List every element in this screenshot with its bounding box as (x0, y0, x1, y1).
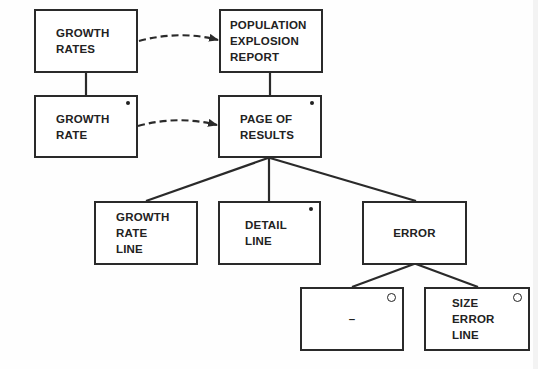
node-label: – (349, 311, 356, 327)
dashed-arrow-growth-rate-to-page (138, 120, 217, 126)
node-size-error-line: SIZE ERROR LINE (424, 287, 530, 351)
edge-page-to-error (270, 158, 416, 201)
node-label: DETAIL LINE (245, 217, 287, 249)
edge-page-to-growth-rate-line (146, 158, 268, 201)
structure-diagram: GROWTH RATES POPULATION EXPLOSION REPORT… (0, 0, 538, 369)
node-growth-rate-line: GROWTH RATE LINE (94, 201, 198, 265)
selection-marker-icon (387, 293, 396, 302)
node-growth-rates: GROWTH RATES (34, 9, 138, 73)
node-growth-rate: GROWTH RATE (34, 95, 138, 158)
edge-error-to-null (352, 264, 414, 287)
edge-error-to-size-error-line (416, 264, 478, 287)
node-page-of-results: PAGE OF RESULTS (218, 95, 322, 158)
node-label: SIZE ERROR LINE (452, 295, 495, 343)
selection-marker-icon (513, 293, 522, 302)
node-label: GROWTH RATES (56, 25, 110, 57)
node-label: GROWTH RATE (56, 111, 110, 143)
node-null-option: – (300, 287, 404, 351)
dashed-arrow-growth-rates-to-report (139, 35, 218, 41)
page-edge-shadow (533, 0, 538, 369)
iteration-marker-icon (309, 207, 313, 211)
node-label: POPULATION EXPLOSION REPORT (230, 17, 307, 65)
node-label: PAGE OF RESULTS (240, 111, 294, 143)
iteration-marker-icon (310, 101, 314, 105)
node-error: ERROR (362, 201, 467, 265)
node-population-explosion-report: POPULATION EXPLOSION REPORT (219, 9, 323, 73)
iteration-marker-icon (126, 101, 130, 105)
node-detail-line: DETAIL LINE (218, 201, 321, 265)
node-label: GROWTH RATE LINE (116, 209, 170, 257)
node-label: ERROR (393, 225, 436, 241)
